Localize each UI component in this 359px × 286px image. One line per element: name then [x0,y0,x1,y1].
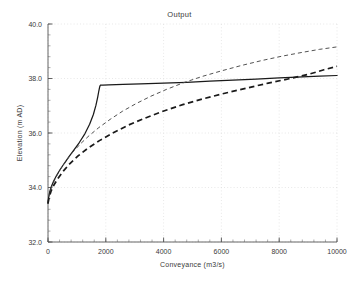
x-axis-title: Conveyance (m3/s) [160,261,225,269]
chart-figure: Output 32.034.036.038.040.0 020004000600… [0,0,359,286]
y-tick-label: 40.0 [28,21,42,28]
x-tick-label: 2000 [98,248,114,255]
data-series-group [48,47,337,203]
series-thin-dashed-curve [48,47,337,203]
y-axis-tick-labels: 32.034.036.038.040.0 [28,21,42,246]
x-tick-label: 8000 [271,248,287,255]
gridlines-group [48,24,337,242]
series-solid-curve [48,76,337,204]
y-tick-label: 32.0 [28,239,42,246]
y-tick-label: 36.0 [28,130,42,137]
y-tick-label: 34.0 [28,184,42,191]
series-thick-dashed-curve [48,66,337,203]
x-tick-label: 6000 [214,248,230,255]
x-tick-label: 4000 [156,248,172,255]
x-axis-tick-labels: 0200040006000800010000 [46,248,347,255]
x-tick-label: 10000 [327,248,347,255]
x-tick-label: 0 [46,248,50,255]
y-tick-label: 38.0 [28,75,42,82]
y-axis-title: Elevation (m AD) [16,105,24,162]
plot-canvas: 32.034.036.038.040.0 0200040006000800010… [0,0,359,286]
